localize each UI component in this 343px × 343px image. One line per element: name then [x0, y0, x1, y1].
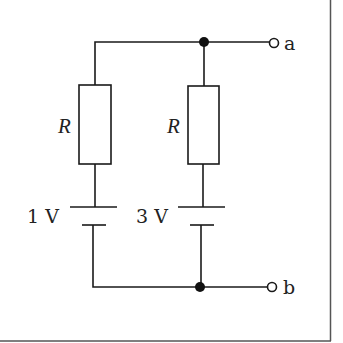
terminal-a-label: a [284, 32, 295, 54]
resistor-left [79, 85, 111, 164]
top-wire [95, 42, 274, 86]
resistor-left-label: R [57, 114, 71, 138]
terminal-b-label: b [283, 276, 295, 298]
resistor-right-label: R [166, 114, 180, 138]
junction-node-bottom [195, 282, 205, 292]
battery-right-label: 3 V [136, 205, 168, 227]
circuit-diagram: R R 1 V 3 V a b [0, 0, 343, 343]
terminal-a [270, 39, 279, 48]
battery-left-label: 1 V [27, 205, 59, 227]
resistor-right [188, 86, 219, 164]
junction-node-top [199, 37, 209, 47]
left-branch [70, 85, 200, 287]
terminal-b [268, 283, 277, 292]
right-branch [178, 86, 225, 287]
